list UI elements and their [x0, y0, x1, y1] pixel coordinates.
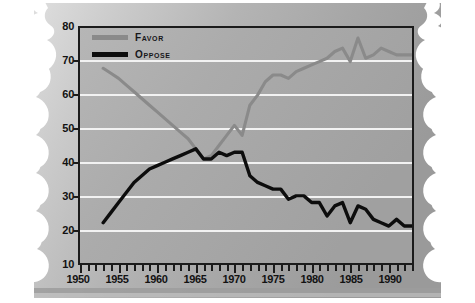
- x-tick: [397, 265, 399, 271]
- x-tick-label: 1965: [175, 273, 215, 285]
- screenshot-root: 80 70 60 50 40 30 20 10 1950 1955 1960 1…: [0, 0, 475, 303]
- x-tick: [111, 265, 113, 271]
- y-tick-label: 20: [48, 224, 74, 236]
- x-tick: [265, 265, 267, 271]
- x-tick: [335, 265, 337, 271]
- y-tick-label: 50: [48, 122, 74, 134]
- x-tick: [404, 265, 406, 271]
- legend-label-favor: Favor: [135, 33, 164, 43]
- x-tick: [296, 265, 298, 271]
- x-tick: [95, 265, 97, 271]
- x-tick: [134, 265, 136, 271]
- x-tick: [242, 265, 244, 271]
- x-tick: [196, 265, 198, 273]
- x-tick-label: 1975: [253, 273, 293, 285]
- legend-item-favor: Favor: [92, 31, 171, 44]
- legend-swatch-favor: [92, 35, 128, 40]
- x-tick: [350, 265, 352, 273]
- x-tick-label: 1960: [136, 273, 176, 285]
- y-tick-label: 40: [48, 156, 74, 168]
- x-tick: [165, 265, 167, 271]
- x-tick: [234, 265, 236, 273]
- x-tick: [304, 265, 306, 271]
- y-tick-label: 10: [48, 258, 74, 270]
- x-tick: [312, 265, 314, 273]
- x-tick: [149, 265, 151, 271]
- chart-legend: Favor Oppose: [92, 31, 171, 65]
- x-tick: [358, 265, 360, 271]
- x-tick: [258, 265, 260, 271]
- x-tick-label: 1955: [97, 273, 137, 285]
- x-tick-label: 1980: [292, 273, 332, 285]
- x-tick-label: 1990: [370, 273, 410, 285]
- y-tick-label: 70: [48, 54, 74, 66]
- y-tick-label: 80: [48, 20, 74, 32]
- x-tick: [142, 265, 144, 271]
- x-tick: [389, 265, 391, 273]
- x-tick: [119, 265, 121, 273]
- x-tick: [180, 265, 182, 271]
- x-tick-label: 1950: [58, 273, 98, 285]
- x-tick: [412, 265, 414, 271]
- x-tick: [173, 265, 175, 271]
- x-tick: [288, 265, 290, 271]
- x-tick: [188, 265, 190, 271]
- x-tick: [319, 265, 321, 271]
- x-tick-label: 1970: [214, 273, 254, 285]
- legend-label-oppose: Oppose: [135, 50, 171, 60]
- x-tick: [211, 265, 213, 271]
- x-tick: [80, 265, 82, 273]
- y-tick-label: 30: [48, 190, 74, 202]
- legend-item-oppose: Oppose: [92, 48, 171, 61]
- x-tick: [126, 265, 128, 271]
- x-tick: [327, 265, 329, 271]
- x-tick: [373, 265, 375, 271]
- x-tick: [103, 265, 105, 271]
- x-tick: [273, 265, 275, 273]
- x-tick: [381, 265, 383, 271]
- x-tick: [227, 265, 229, 271]
- x-tick: [281, 265, 283, 271]
- x-tick: [157, 265, 159, 273]
- x-tick: [366, 265, 368, 271]
- x-tick-label: 1985: [331, 273, 371, 285]
- line-oppose: [103, 149, 412, 226]
- y-tick-label: 60: [48, 88, 74, 100]
- legend-swatch-oppose: [92, 52, 128, 57]
- x-tick: [204, 265, 206, 271]
- x-tick: [219, 265, 221, 271]
- x-tick: [88, 265, 90, 271]
- x-tick: [250, 265, 252, 271]
- x-tick: [343, 265, 345, 271]
